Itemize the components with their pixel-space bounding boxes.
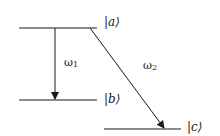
three-level-diagram: |a⟩ |b⟩ |c⟩ ω1 ω2 — [0, 0, 220, 136]
level-a-label: |a⟩ — [104, 15, 120, 29]
omega1-label: ω1 — [64, 56, 78, 69]
level-b-label: |b⟩ — [104, 92, 120, 106]
omega2-label: ω2 — [143, 59, 157, 72]
level-c-label: |c⟩ — [187, 120, 202, 134]
transition-arrow-omega2 — [90, 28, 164, 128]
